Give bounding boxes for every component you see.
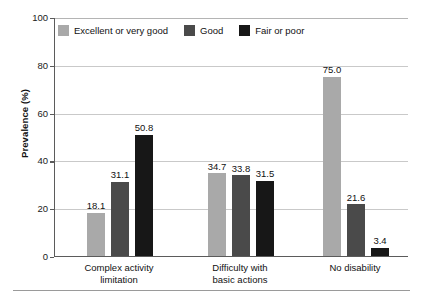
- legend-swatch-icon-fair: [239, 25, 250, 36]
- bar-value-label: 18.1: [81, 201, 111, 211]
- bar-value-label: 21.6: [341, 193, 371, 203]
- y-tick-label-0: 0: [18, 252, 48, 262]
- y-tick-mark-100: [50, 18, 54, 19]
- y-tick-mark-60: [50, 114, 54, 115]
- y-tick-label-60: 60: [18, 109, 48, 119]
- bar[interactable]: [208, 173, 226, 256]
- gridline-100: [55, 18, 408, 19]
- legend-item-excellent-or-very-good[interactable]: Excellent or very good: [58, 25, 168, 36]
- y-tick-label-80: 80: [18, 61, 48, 71]
- bar[interactable]: [87, 213, 105, 256]
- legend-label-excellent: Excellent or very good: [74, 25, 168, 36]
- bottom-divider-rule: [13, 290, 410, 291]
- gridline-80: [55, 66, 408, 67]
- y-tick-mark-20: [50, 209, 54, 210]
- legend-swatch-icon-excellent: [58, 25, 69, 36]
- legend: Excellent or very good Good Fair or poor: [58, 25, 304, 36]
- y-tick-label-20: 20: [18, 204, 48, 214]
- gridline-60: [55, 114, 408, 115]
- bar[interactable]: [111, 182, 129, 256]
- bar[interactable]: [347, 204, 365, 256]
- bar[interactable]: [232, 175, 250, 256]
- x-axis-label-group-3: No disability: [295, 262, 415, 274]
- bar[interactable]: [371, 248, 389, 256]
- y-tick-mark-80: [50, 66, 54, 67]
- x-axis-label-group-2: Difficulty with basic actions: [180, 262, 300, 285]
- legend-label-good: Good: [200, 25, 223, 36]
- bar-value-label: 31.1: [105, 170, 135, 180]
- y-axis-title: Prevalence (%): [19, 54, 30, 194]
- x-axis-label-group-1: Complex activity limitation: [59, 262, 179, 285]
- bar[interactable]: [256, 181, 274, 256]
- legend-swatch-icon-good: [184, 25, 195, 36]
- legend-label-fair: Fair or poor: [255, 25, 304, 36]
- bar[interactable]: [135, 135, 153, 256]
- legend-item-good[interactable]: Good: [184, 25, 223, 36]
- bar-value-label: 3.4: [365, 236, 395, 246]
- bar-value-label: 75.0: [317, 65, 347, 75]
- bar-value-label: 31.5: [250, 169, 280, 179]
- y-tick-mark-0: [50, 257, 54, 258]
- y-tick-mark-40: [50, 161, 54, 162]
- bar-value-label: 50.8: [129, 123, 159, 133]
- legend-item-fair-or-poor[interactable]: Fair or poor: [239, 25, 304, 36]
- y-tick-label-40: 40: [18, 156, 48, 166]
- bar[interactable]: [323, 77, 341, 256]
- bar-chart-figure: Prevalence (%) 18.131.150.834.733.831.57…: [0, 0, 421, 302]
- y-tick-label-100: 100: [18, 13, 48, 23]
- plot-area: 18.131.150.834.733.831.575.021.63.4: [54, 18, 408, 257]
